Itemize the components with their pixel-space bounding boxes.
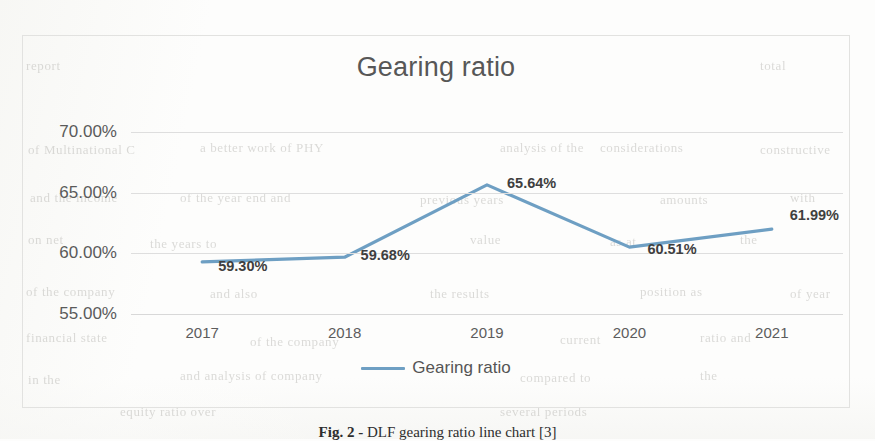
legend-line-swatch (361, 367, 405, 370)
x-axis-tick-label: 2020 (613, 324, 646, 341)
x-axis-tick-label: 2019 (470, 324, 503, 341)
y-axis-tick-label: 65.00% (59, 183, 117, 203)
data-point-label: 61.99% (790, 207, 839, 223)
figure-caption-text: DLF gearing ratio line chart [3] (363, 424, 556, 440)
data-point-label: 59.30% (218, 258, 267, 274)
y-axis-tick-label: 55.00% (59, 304, 117, 324)
y-axis-tick-label: 60.00% (59, 243, 117, 263)
chart-legend: Gearing ratio (23, 358, 849, 378)
legend-entry-label: Gearing ratio (412, 358, 510, 378)
x-axis-line (131, 314, 843, 315)
data-point-label: 59.68% (361, 247, 410, 263)
plot-area: 70.00%65.00%60.00%55.00% (131, 132, 843, 314)
x-axis-tick-label: 2018 (328, 324, 361, 341)
y-axis-tick-label: 70.00% (59, 122, 117, 142)
x-axis-tick-label: 2021 (755, 324, 788, 341)
gridline-horizontal (131, 132, 843, 133)
gridline-horizontal (131, 253, 843, 254)
x-axis-tick-label: 2017 (186, 324, 219, 341)
chart-container: Gearing ratio 70.00%65.00%60.00%55.00% 2… (22, 35, 850, 408)
figure-caption: Fig. 2 - DLF gearing ratio line chart [3… (0, 424, 875, 441)
data-point-label: 60.51% (647, 241, 696, 257)
series-line-gearing-ratio (131, 132, 843, 314)
chart-title: Gearing ratio (23, 52, 849, 83)
gridline-horizontal (131, 193, 843, 194)
data-point-label: 65.64% (507, 175, 556, 191)
figure-caption-number: Fig. 2 - (319, 424, 364, 440)
